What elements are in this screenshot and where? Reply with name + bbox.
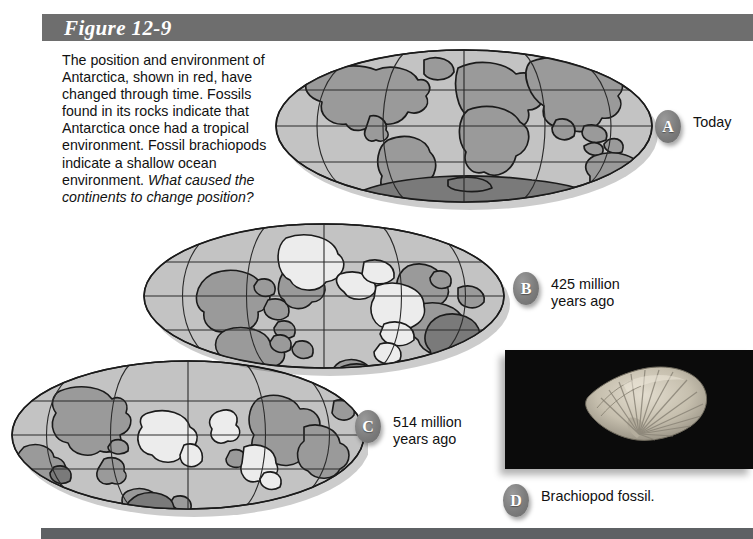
brachiopod-fossil-photo (505, 350, 753, 469)
globe-b-425ma (140, 218, 512, 390)
callout-badge-b-letter: B (521, 281, 532, 297)
callout-badge-d[interactable]: D (503, 484, 529, 517)
callout-badge-c-letter: C (362, 419, 374, 435)
caption-body: The position and environment of Antarcti… (62, 52, 266, 188)
callout-badge-a-letter: A (662, 119, 674, 135)
callout-d: D Brachiopod fossil. (503, 484, 655, 517)
callout-a-label: Today (693, 110, 731, 131)
bottom-section-bar (41, 528, 753, 539)
figure-title-bar: Figure 12-9 (42, 14, 753, 41)
callout-d-label: Brachiopod fossil. (541, 484, 655, 505)
globe-a-today (272, 44, 664, 224)
figure-root: Figure 12-9 The position and environment… (0, 0, 753, 539)
figure-title: Figure 12-9 (64, 16, 172, 41)
callout-badge-a[interactable]: A (655, 110, 681, 143)
callout-b-label: 425 million years ago (551, 272, 620, 310)
callout-c-label: 514 million years ago (393, 410, 462, 448)
callout-a: A Today (655, 110, 731, 143)
callout-c: C 514 million years ago (355, 410, 462, 448)
callout-b: B 425 million years ago (513, 272, 620, 310)
callout-badge-d-letter: D (510, 493, 522, 509)
callout-badge-c[interactable]: C (355, 410, 381, 443)
callout-badge-b[interactable]: B (513, 272, 539, 305)
figure-caption: The position and environment of Antarcti… (62, 52, 276, 206)
